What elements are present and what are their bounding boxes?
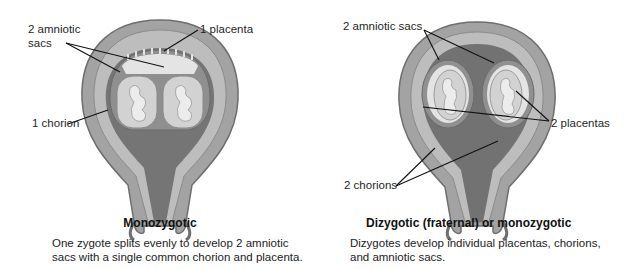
monozygotic-panel: 2 amniotic sacs 1 placenta 1 chorion Mon… [0, 0, 312, 269]
label-2-amniotic-sacs-line2: sacs [28, 36, 52, 50]
label-2-amniotic-sacs: 2 amniotic sacs [343, 19, 422, 33]
label-2-chorions: 2 chorions [344, 178, 397, 192]
dizygotic-title: Dizygotic (fraternal) or monozygotic [366, 216, 571, 230]
dizygotic-caption-line2: and amniotic sacs. [350, 250, 445, 264]
label-2-placentas: 2 placentas [551, 116, 610, 130]
monozygotic-caption-line1: One zygote splits evenly to develop 2 am… [52, 236, 289, 250]
label-1-placenta: 1 placenta [200, 22, 253, 36]
dizygotic-panel: 2 amniotic sacs 2 placentas 2 chorions D… [312, 0, 625, 269]
label-1-chorion: 1 chorion [32, 116, 79, 130]
monozygotic-caption-line2: sacs with a single common chorion and pl… [52, 250, 303, 264]
monozygotic-title: Monozygotic [0, 216, 320, 230]
label-2-amniotic-sacs-line1: 2 amniotic [28, 22, 80, 36]
dizygotic-caption-line1: Dizygotes develop individual placentas, … [350, 236, 601, 250]
